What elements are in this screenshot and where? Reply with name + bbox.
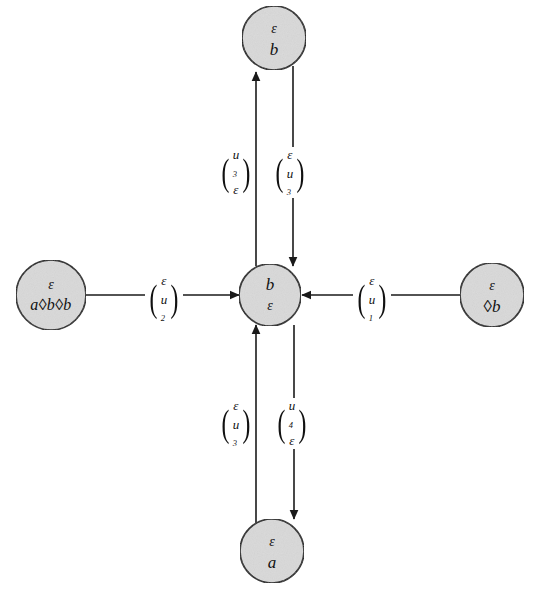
paren-close-icon: ) <box>243 408 251 438</box>
node-circle-bottom <box>240 519 304 583</box>
edge-label-lower: ε <box>289 434 294 448</box>
edge-label-upper: ε <box>287 148 292 162</box>
paren-open-icon: ( <box>221 157 229 187</box>
node-circle-top <box>242 6 306 70</box>
node-circle-right <box>460 263 524 327</box>
paren-close-icon: ) <box>299 408 307 438</box>
node-circle-center <box>239 264 301 326</box>
edge-label-left-to-center: ( ε u2 ) <box>145 273 183 324</box>
edge-label-upper: u4 <box>289 399 296 429</box>
paren-open-icon: ( <box>149 283 157 313</box>
paren-open-icon: ( <box>221 408 229 438</box>
paren-close-icon: ) <box>297 157 305 187</box>
edge-label-right-to-center: ( ε u1 ) <box>353 273 391 324</box>
edge-label-upper: ε <box>161 274 166 288</box>
transducer-diagram: ε b ε a◊b◊b b ε ε ◊b ε a ( u3 ε ) ( ε u3… <box>0 0 539 589</box>
edge-label-lower: u2 <box>161 293 168 323</box>
edge-label-upper: u3 <box>233 148 240 178</box>
edge-label-center-to-top: ( u3 ε ) <box>217 147 255 198</box>
edge-label-bottom-to-center: ( ε u3 ) <box>217 398 255 449</box>
paren-close-icon: ) <box>171 283 179 313</box>
paren-close-icon: ) <box>379 283 387 313</box>
paren-open-icon: ( <box>357 283 365 313</box>
edge-label-lower: u3 <box>287 167 294 197</box>
edge-label-lower: ε <box>233 183 238 197</box>
edge-label-center-to-bottom: ( u4 ε ) <box>273 398 311 449</box>
paren-open-icon: ( <box>277 408 285 438</box>
paren-close-icon: ) <box>243 157 251 187</box>
edge-label-lower: u1 <box>369 293 376 323</box>
edge-label-upper: ε <box>233 399 238 413</box>
node-circle-left <box>16 260 86 330</box>
diagram-canvas <box>0 0 539 589</box>
edge-label-top-to-center: ( ε u3 ) <box>271 147 309 198</box>
edge-label-lower: u3 <box>233 418 240 448</box>
edge-label-upper: ε <box>369 274 374 288</box>
paren-open-icon: ( <box>275 157 283 187</box>
